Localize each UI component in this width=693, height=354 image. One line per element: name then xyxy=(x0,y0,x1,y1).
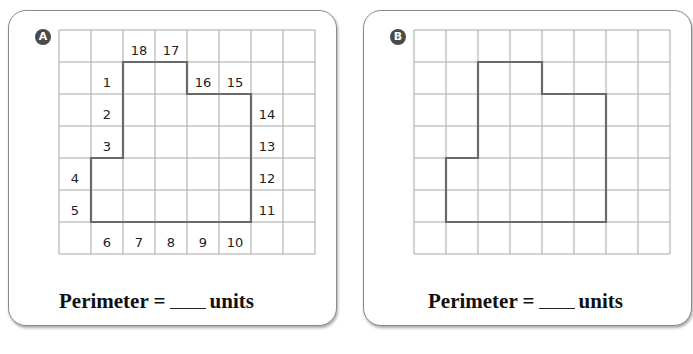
side-count-label: 18 xyxy=(131,43,148,58)
side-count-label: 4 xyxy=(71,171,79,186)
answer-blank-b[interactable] xyxy=(539,307,575,309)
side-count-label: 8 xyxy=(167,235,175,250)
side-count-label: 2 xyxy=(103,107,111,122)
side-count-label: 1 xyxy=(103,75,111,90)
grid-b xyxy=(413,29,673,257)
units-label: units xyxy=(579,289,623,313)
answer-blank-a[interactable] xyxy=(170,307,206,309)
badge-b-icon: B xyxy=(390,29,406,45)
shape-outline xyxy=(446,62,606,222)
side-count-label: 12 xyxy=(259,171,276,186)
side-count-label: 13 xyxy=(259,139,276,154)
grid-a: 123456789101112131415161718 xyxy=(58,29,318,257)
side-count-label: 3 xyxy=(103,139,111,154)
side-count-label: 7 xyxy=(135,235,143,250)
badge-a-icon: A xyxy=(35,29,51,45)
problem-card-b: B Perimeter =units xyxy=(363,10,692,326)
side-count-label: 16 xyxy=(195,75,212,90)
problem-card-a: A 123456789101112131415161718 Perimeter … xyxy=(8,10,337,326)
side-count-label: 11 xyxy=(259,203,276,218)
side-count-label: 14 xyxy=(259,107,276,122)
side-count-label: 6 xyxy=(103,235,111,250)
side-count-label: 17 xyxy=(163,43,180,58)
perimeter-label: Perimeter = xyxy=(428,289,535,313)
side-count-label: 15 xyxy=(227,75,244,90)
units-label: units xyxy=(210,289,254,313)
side-count-label: 10 xyxy=(227,235,244,250)
perimeter-statement-b: Perimeter =units xyxy=(428,289,623,314)
perimeter-label: Perimeter = xyxy=(59,289,166,313)
side-count-label: 9 xyxy=(199,235,207,250)
perimeter-statement-a: Perimeter =units xyxy=(59,289,254,314)
side-count-label: 5 xyxy=(71,203,79,218)
